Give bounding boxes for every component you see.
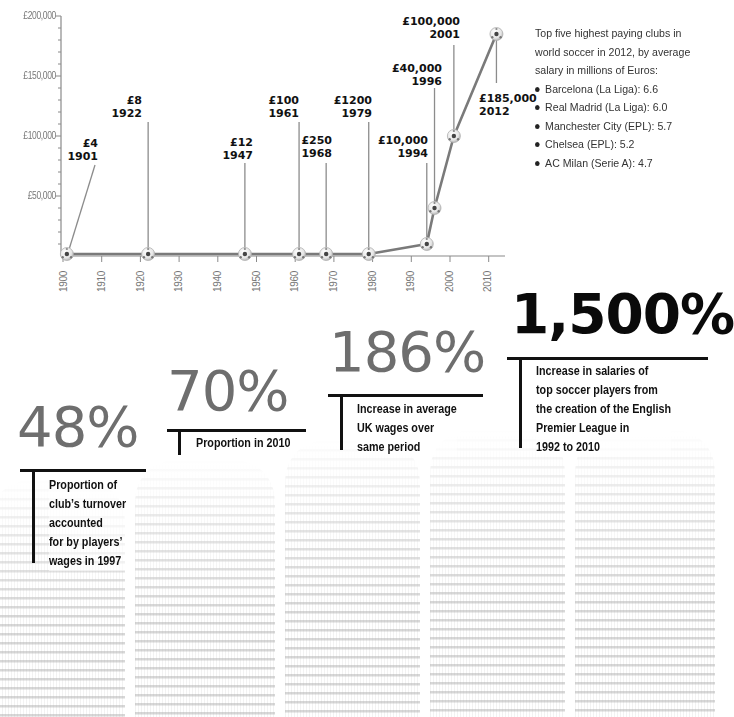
bullet-icon	[535, 105, 540, 110]
callout-2012: £185,000 2012	[479, 92, 537, 118]
top-clubs-intro: Top five highest paying clubs in world s…	[535, 24, 705, 80]
stat-desc-line: for by players’	[49, 533, 126, 552]
callout-1994: £10,000 1994	[370, 134, 428, 160]
stat-value: 1,500%	[511, 287, 734, 342]
soccer-ball-marker-icon	[362, 248, 375, 261]
stat-desc-line: top soccer players from	[536, 381, 671, 400]
callout-year: 1996	[384, 75, 442, 88]
stat-desc-line: club’s turnover	[49, 495, 126, 514]
bullet-icon	[535, 87, 540, 92]
stat-desc-line: Increase in salaries of	[536, 362, 671, 381]
coin-stack	[285, 440, 420, 717]
stat-divider	[167, 429, 306, 432]
stat-value: 48%	[17, 399, 138, 455]
callout-value: £1200	[320, 94, 372, 107]
callout-value: £185,000	[479, 92, 537, 105]
callout-1901: £4 1901	[60, 137, 98, 163]
callout-1996: £40,000 1996	[384, 62, 442, 88]
callout-1947: £12 1947	[212, 136, 253, 162]
club-label: Manchester City (EPL): 5.7	[545, 120, 672, 132]
soccer-ball-marker-icon	[447, 130, 460, 143]
stat-divider	[328, 394, 483, 397]
soccer-ball-marker-icon	[60, 248, 73, 261]
soccer-ball-marker-icon	[320, 248, 333, 261]
coin-stack	[575, 430, 715, 717]
top-clubs-list: Barcelona (La Liga): 6.6 Real Madrid (La…	[535, 80, 705, 173]
bullet-icon	[535, 142, 540, 147]
callout-2001: £100,000 2001	[390, 15, 460, 41]
club-label: AC Milan (Serie A): 4.7	[545, 157, 653, 169]
soccer-ball-marker-icon	[428, 202, 441, 215]
club-label: Real Madrid (La Liga): 6.0	[545, 101, 667, 113]
stat-bracket	[32, 469, 35, 563]
stat-desc-line: Proportion in 2010	[196, 434, 290, 453]
stat-bracket	[340, 394, 343, 450]
stat-desc-line: wages in 1997	[49, 552, 126, 571]
list-item: Barcelona (La Liga): 6.6	[535, 80, 705, 99]
callout-year: 1901	[60, 150, 98, 163]
callout-year: 1922	[100, 107, 142, 120]
stat-description: Proportion of club’s turnover accounted …	[49, 476, 126, 571]
stat-description: Increase in salaries of top soccer playe…	[536, 362, 671, 457]
callout-value: £8	[100, 94, 142, 107]
callout-value: £250	[290, 134, 332, 147]
coin-stack	[430, 430, 565, 717]
stat-value: 186%	[329, 324, 485, 380]
callout-year: 2001	[390, 28, 460, 41]
stat-desc-line: 1992 to 2010	[536, 438, 671, 457]
callout-year: 1968	[290, 147, 332, 160]
soccer-ball-marker-icon	[142, 248, 155, 261]
callout-year: 1979	[320, 107, 372, 120]
club-label: Chelsea (EPL): 5.2	[545, 138, 634, 150]
callout-1979: £1200 1979	[320, 94, 372, 120]
callout-1968: £250 1968	[290, 134, 332, 160]
callout-value: £40,000	[384, 62, 442, 75]
bullet-icon	[535, 124, 540, 129]
club-label: Barcelona (La Liga): 6.6	[545, 83, 658, 95]
soccer-ball-marker-icon	[293, 248, 306, 261]
stat-desc-line: Proportion of	[49, 476, 126, 495]
callout-1961: £100 1961	[258, 94, 299, 120]
stat-desc-line: same period	[357, 438, 457, 457]
stat-desc-line: Increase in average	[357, 400, 457, 419]
callout-value: £4	[60, 137, 98, 150]
coin-stacks-background	[0, 430, 722, 717]
callout-year: 1947	[212, 149, 253, 162]
soccer-ball-marker-icon	[490, 28, 503, 41]
callout-year: 1994	[370, 147, 428, 160]
callout-1922: £8 1922	[100, 94, 142, 120]
callout-value: £12	[212, 136, 253, 149]
list-item: Chelsea (EPL): 5.2	[535, 135, 705, 154]
soccer-ball-marker-icon	[238, 248, 251, 261]
bullet-icon	[535, 161, 540, 166]
stat-value: 70%	[167, 363, 288, 419]
soccer-ball-marker-icon	[420, 238, 433, 251]
callout-value: £100	[258, 94, 299, 107]
stat-bracket	[519, 357, 522, 448]
list-item: AC Milan (Serie A): 4.7	[535, 154, 705, 173]
list-item: Real Madrid (La Liga): 6.0	[535, 98, 705, 117]
stat-desc-line: Premier League in	[536, 419, 671, 438]
coin-stack	[135, 460, 275, 717]
top-clubs-panel: Top five highest paying clubs in world s…	[535, 24, 705, 172]
stat-desc-line: accounted	[49, 514, 126, 533]
stat-bracket	[178, 429, 181, 455]
stat-description: Increase in average UK wages over same p…	[357, 400, 457, 457]
stat-desc-line: the creation of the English	[536, 400, 671, 419]
callout-value: £100,000	[390, 15, 460, 28]
stat-divider	[507, 357, 708, 360]
callout-value: £10,000	[370, 134, 428, 147]
stat-desc-line: UK wages over	[357, 419, 457, 438]
list-item: Manchester City (EPL): 5.7	[535, 117, 705, 136]
callout-year: 1961	[258, 107, 299, 120]
stat-description: Proportion in 2010	[196, 434, 290, 453]
callout-year: 2012	[479, 105, 537, 118]
stat-divider	[20, 469, 146, 472]
